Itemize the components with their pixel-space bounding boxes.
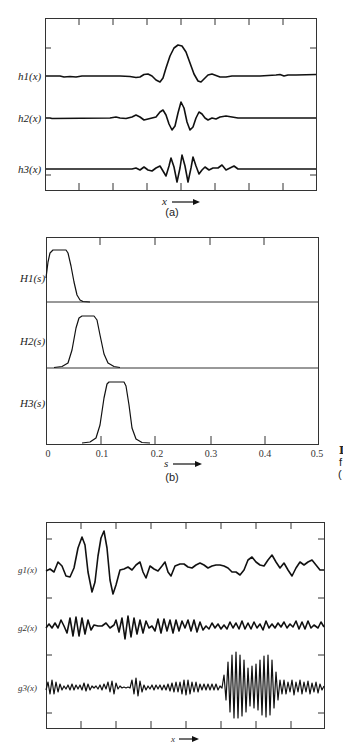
trace-h1 [46,45,316,82]
panel-b-bottom-ticks [101,436,265,444]
label-g2: g2(x) [18,623,37,633]
panel-b-frame [47,238,319,445]
panel-a: h1(x) h2(x) h3(x) x (a) [18,18,317,218]
panel-b: H1(s) H2(s) H3(s) 0 0.1 0.2 0.3 0.4 0.5 … [19,237,343,483]
trace-h3 [46,155,316,182]
trace-H1 [46,250,90,302]
trace-H2 [54,316,120,368]
panel-a-top-ticks [79,18,283,25]
label-H1: H1(s) [19,272,45,285]
figure-canvas: h1(x) h2(x) h3(x) x (a) [0,0,343,744]
panel-c-x-label: x [170,734,175,744]
arrow-right-icon [172,199,200,205]
panel-b-x-label: s [164,457,168,469]
panel-a-caption: (a) [165,206,178,218]
tick-label-0.3: 0.3 [205,448,218,459]
panel-a-bottom-ticks [79,183,283,190]
trace-g2 [46,616,324,639]
tick-label-0: 0 [46,448,51,459]
label-h3: h3(x) [18,163,42,176]
panel-c: g1(x) g2(x) g3(x) x [18,522,325,744]
label-h2: h2(x) [18,112,42,125]
trace-h2 [46,102,316,130]
panel-b-caption: (b) [165,471,178,483]
trace-g1 [46,531,324,594]
clipped-caption-line-2: f [339,456,343,468]
label-g3: g3(x) [18,683,37,693]
tick-label-0.1: 0.1 [96,448,109,459]
arrow-right-icon [173,461,202,467]
panel-c-bottom-ticks [81,721,291,728]
panel-c-top-ticks [81,522,291,529]
label-g1: g1(x) [18,565,37,575]
label-H2: H2(s) [19,335,45,348]
panel-b-top-ticks [100,237,264,245]
arrow-right-icon [179,736,199,742]
tick-label-0.5: 0.5 [311,448,324,459]
label-h1: h1(x) [18,70,42,83]
trace-H3 [82,382,150,443]
tick-label-0.4: 0.4 [259,448,272,459]
panel-a-side-ticks [45,48,316,175]
tick-label-0.2: 0.2 [151,448,164,459]
label-H3: H3(s) [19,397,45,410]
trace-g3 [46,652,324,718]
clipped-caption-line-3: ( [338,468,342,480]
